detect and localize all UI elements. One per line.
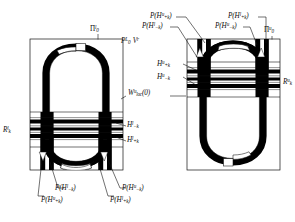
diagram-svg [0,0,295,222]
h-um-sub: −k [164,75,169,81]
pi-l-sub: 0 [96,27,98,33]
p-open-6: P( [41,196,48,204]
p-open-7: P( [122,184,129,192]
label-h-l-plus-k: Hl+k [127,136,139,144]
p-close-8: ) [128,196,130,204]
label-p-h-u-minus-k-bottom: P(Hu−k) [122,184,144,192]
r-u-sub: k [290,80,292,86]
p-close-7: ) [141,184,143,192]
p-open-3: P( [228,12,235,20]
h-lp-sub: +k [133,138,138,144]
p-close-5: ) [73,184,75,192]
label-h-u-minus-k: Hu−k [157,73,170,81]
p-close-6: ) [60,196,62,204]
p-close-2: ) [160,22,162,30]
label-p-h-l-plus-k-top: P(Hl+k) [228,12,249,20]
p-open-4: P( [215,22,222,30]
label-p-h-l-plus-k-bottom: P(Hl+k) [110,196,131,204]
p-sub: 0 [128,39,130,45]
v-sup: r [137,36,139,42]
label-h-l-minus-k: Hl−k [127,121,139,129]
label-pi-0-l: Пl0 [90,25,99,33]
p-open-5: P( [55,184,62,192]
label-pi-0-u: Пu0 [264,26,274,34]
label-p0-vr: PL0Vr [121,37,139,45]
w-arg: (0) [142,89,150,97]
p-close-4: ) [234,22,236,30]
p-open-1: P( [150,12,157,20]
label-r-u-k: Ruk [283,78,292,86]
label-p-h-u-plus-k-bottom: P(Hu+k) [41,196,63,204]
h-up-sub: +k [164,62,169,68]
label-r-l-k: Rlk [3,126,11,134]
label-p-h-u-minus-k-top: P(Hu−k) [215,22,237,30]
p-open-2: P( [142,22,149,30]
label-p-h-l-minus-k-bottom: P(Hl−k) [55,184,76,192]
label-p-h-u-plus-k-top: P(Hu+k) [150,12,172,20]
r-l-sub: k [9,128,11,134]
figure-canvas: Пl0 Пu0 PL0Vr Wuloc(0) Rlk Ruk Hl−k Hl+k… [0,0,295,222]
p-close-3: ) [246,12,248,20]
p-open-8: P( [110,196,117,204]
p-close-1: ) [169,12,171,20]
label-h-u-plus-k: Hu+k [157,60,170,68]
label-p-h-l-minus-k-top: P(Hl−k) [142,22,163,30]
pi-u-sub: 0 [271,28,273,34]
label-w-loc-0: Wuloc(0) [128,89,150,97]
h-lm-sub: −k [133,123,138,129]
